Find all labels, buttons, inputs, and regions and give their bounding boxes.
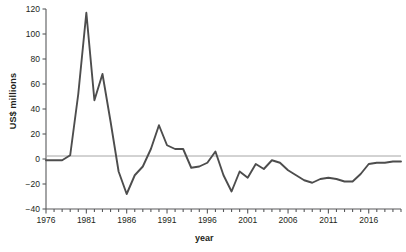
y-tick-label: 80 [31,54,41,64]
x-tick-label: 1976 [37,215,56,225]
y-axis-title: US$ millions [8,36,18,166]
y-axis-tick-labels: −40−20020406080100120 [26,4,41,214]
x-axis-title: year [195,233,214,243]
figure: −40−20020406080100120 197619811986199119… [0,0,406,252]
x-axis-tick-labels: 197619811986199119962001200620112016 [37,215,379,225]
y-tick-label: 0 [35,154,40,164]
y-tick-label: −40 [26,204,41,214]
y-tick-label: 40 [31,104,41,114]
y-tick-label: −20 [26,179,41,189]
x-axis-ticks [46,209,401,214]
x-tick-label: 2016 [359,215,378,225]
y-tick-label: 120 [26,4,40,14]
line-chart: −40−20020406080100120 197619811986199119… [0,0,406,252]
x-tick-label: 1996 [198,215,217,225]
y-tick-label: 100 [26,29,40,39]
x-tick-label: 1991 [158,215,177,225]
y-tick-label: 60 [31,79,41,89]
x-tick-label: 1986 [117,215,136,225]
x-tick-label: 2011 [319,215,338,225]
y-tick-label: 20 [31,129,41,139]
x-tick-label: 2001 [238,215,257,225]
data-series-line [46,13,401,194]
x-tick-label: 1981 [77,215,96,225]
x-tick-label: 2006 [279,215,298,225]
